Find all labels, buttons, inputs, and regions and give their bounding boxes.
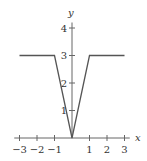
x-axis-label: x (135, 132, 141, 143)
x-tick-label: 1 (86, 144, 92, 155)
axes (14, 23, 130, 139)
x-tick-label: −1 (47, 144, 62, 155)
y-tick-label: 4 (61, 23, 67, 34)
x-tick-label: 3 (121, 144, 127, 155)
tick-labels: −3−2−11231234 (12, 23, 128, 156)
x-tick-label: −2 (30, 144, 45, 155)
chart: −3−2−11231234 x y (0, 0, 147, 161)
x-tick-label: −3 (12, 144, 27, 155)
y-tick-label: 3 (61, 50, 67, 61)
y-axis-label: y (67, 7, 74, 18)
x-tick-label: 2 (104, 144, 110, 155)
